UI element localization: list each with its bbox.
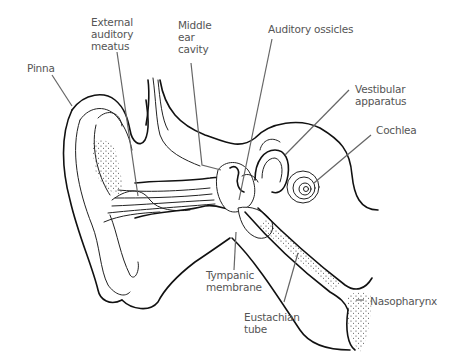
label-external-auditory-meatus: External auditory meatus [91,16,133,52]
label-tympanic-membrane: Tympanic membrane [206,269,262,293]
label-cochlea: Cochlea [376,124,417,136]
label-vestibular-apparatus: Vestibular apparatus [355,83,406,107]
concha-stipple [92,140,123,195]
label-nasopharynx: Nasopharynx [370,295,437,307]
label-eustachian-tube: Eustachian tube [244,311,300,335]
label-auditory-ossicles: Auditory ossicles [268,23,353,35]
ear-canal-drawing [104,177,232,222]
label-pinna: Pinna [27,62,55,74]
inner-ear-drawing [255,139,319,203]
label-middle-ear-cavity: Middle ear cavity [178,19,211,55]
